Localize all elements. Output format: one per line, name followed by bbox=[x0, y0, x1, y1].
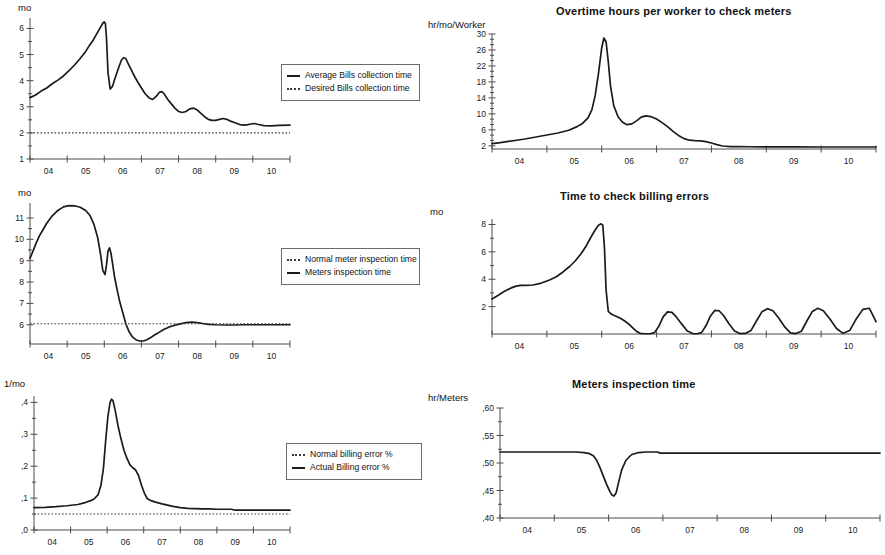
svg-text:07: 07 bbox=[157, 537, 167, 547]
svg-text:10: 10 bbox=[848, 525, 858, 535]
svg-text:,55: ,55 bbox=[482, 431, 494, 441]
legend-item: Meters inspection time bbox=[287, 266, 413, 279]
y-unit-label: hr/Meters bbox=[428, 392, 468, 403]
svg-text:,40: ,40 bbox=[482, 513, 494, 523]
svg-text:05: 05 bbox=[577, 525, 587, 535]
svg-text:,2: ,2 bbox=[21, 461, 28, 471]
legend-line-dotted-icon bbox=[292, 450, 306, 460]
svg-text:09: 09 bbox=[230, 351, 240, 361]
svg-text:10: 10 bbox=[267, 351, 277, 361]
svg-text:04: 04 bbox=[515, 156, 525, 166]
svg-text:09: 09 bbox=[230, 166, 240, 176]
svg-text:1: 1 bbox=[19, 154, 24, 164]
legend-label: Meters inspection time bbox=[305, 267, 391, 278]
svg-text:14: 14 bbox=[477, 93, 487, 103]
svg-text:04: 04 bbox=[522, 525, 532, 535]
legend-label: Actual Billing error % bbox=[310, 462, 390, 473]
svg-text:,1: ,1 bbox=[21, 493, 28, 503]
svg-text:08: 08 bbox=[192, 166, 202, 176]
legend-label: Average Bills collection time bbox=[305, 70, 412, 81]
svg-text:06: 06 bbox=[121, 537, 131, 547]
svg-text:2: 2 bbox=[481, 141, 486, 151]
svg-text:08: 08 bbox=[192, 351, 202, 361]
svg-text:8: 8 bbox=[19, 277, 24, 287]
legend-line-solid-icon bbox=[287, 268, 301, 278]
series-solid bbox=[500, 452, 880, 496]
svg-text:07: 07 bbox=[155, 351, 165, 361]
svg-text:08: 08 bbox=[194, 537, 204, 547]
legend-label: Normal meter inspection time bbox=[305, 254, 417, 265]
legend-line-dotted-icon bbox=[287, 255, 301, 265]
svg-text:05: 05 bbox=[570, 341, 580, 351]
svg-text:8: 8 bbox=[481, 219, 486, 229]
svg-text:10: 10 bbox=[844, 341, 854, 351]
svg-text:2: 2 bbox=[481, 302, 486, 312]
svg-text:05: 05 bbox=[84, 537, 94, 547]
panel-billing-errors-time: Time to check billing errors mo 24680405… bbox=[422, 185, 852, 370]
svg-text:3: 3 bbox=[19, 102, 24, 112]
legend-item: Normal meter inspection time bbox=[287, 253, 413, 266]
svg-text:04: 04 bbox=[44, 166, 54, 176]
legend-label: Desired Bills collection time bbox=[305, 83, 410, 94]
svg-text:4: 4 bbox=[481, 274, 486, 284]
legend-meters-inspection: Normal meter inspection time Meters insp… bbox=[281, 248, 420, 285]
legend-item: Average Bills collection time bbox=[287, 69, 413, 82]
svg-text:09: 09 bbox=[789, 341, 799, 351]
svg-text:7: 7 bbox=[19, 298, 24, 308]
panel-meters-inspection-time: Meters inspection time hr/Meters ,40,45,… bbox=[422, 370, 852, 555]
panel-billing-error-pct: 1/mo ,0,1,2,3,404050607080910 Normal bil… bbox=[0, 370, 430, 555]
series-solid bbox=[492, 38, 876, 147]
svg-text:6: 6 bbox=[19, 23, 24, 33]
svg-text:08: 08 bbox=[734, 341, 744, 351]
svg-text:,45: ,45 bbox=[482, 486, 494, 496]
svg-text:5: 5 bbox=[19, 50, 24, 60]
svg-text:6: 6 bbox=[481, 125, 486, 135]
series-solid bbox=[34, 399, 290, 510]
series-solid bbox=[30, 206, 290, 341]
svg-text:04: 04 bbox=[44, 351, 54, 361]
svg-text:08: 08 bbox=[740, 525, 750, 535]
legend-label: Normal billing error % bbox=[310, 449, 393, 460]
svg-text:2: 2 bbox=[19, 128, 24, 138]
svg-text:10: 10 bbox=[477, 109, 487, 119]
svg-text:10: 10 bbox=[15, 234, 25, 244]
svg-text:,0: ,0 bbox=[21, 525, 28, 535]
legend-billing-error: Normal billing error % Actual Billing er… bbox=[286, 443, 422, 480]
svg-text:06: 06 bbox=[118, 166, 128, 176]
svg-text:05: 05 bbox=[570, 156, 580, 166]
chart-bills-collection-time: 12345604050607080910 bbox=[0, 10, 300, 185]
svg-text:6: 6 bbox=[481, 247, 486, 257]
svg-text:,3: ,3 bbox=[21, 429, 28, 439]
chart-billing-error-percent: ,0,1,2,3,404050607080910 bbox=[0, 388, 300, 555]
svg-text:,60: ,60 bbox=[482, 403, 494, 413]
svg-text:07: 07 bbox=[685, 525, 695, 535]
legend-line-solid-icon bbox=[292, 463, 306, 473]
svg-text:06: 06 bbox=[624, 341, 634, 351]
svg-text:09: 09 bbox=[230, 537, 240, 547]
svg-text:26: 26 bbox=[477, 45, 487, 55]
svg-text:09: 09 bbox=[789, 156, 799, 166]
svg-text:10: 10 bbox=[844, 156, 854, 166]
svg-text:05: 05 bbox=[81, 351, 91, 361]
svg-text:04: 04 bbox=[515, 341, 525, 351]
svg-text:06: 06 bbox=[118, 351, 128, 361]
y-unit-label: mo bbox=[430, 206, 443, 217]
svg-text:05: 05 bbox=[81, 166, 91, 176]
svg-text:22: 22 bbox=[477, 61, 487, 71]
legend-item: Normal billing error % bbox=[292, 448, 415, 461]
svg-text:07: 07 bbox=[679, 156, 689, 166]
legend-line-solid-icon bbox=[287, 71, 301, 81]
panel-bills-collection-time: mo 12345604050607080910 Average Bills co… bbox=[0, 0, 430, 185]
chart-title: Time to check billing errors bbox=[560, 190, 709, 202]
chart-overtime-hours: 2610141822263004050607080910 bbox=[462, 28, 882, 173]
svg-text:4: 4 bbox=[19, 76, 24, 86]
legend-bills-collection: Average Bills collection time Desired Bi… bbox=[281, 64, 420, 101]
chart-billing-errors-time: 246804050607080910 bbox=[462, 213, 882, 358]
svg-text:06: 06 bbox=[631, 525, 641, 535]
legend-line-dotted-icon bbox=[287, 84, 301, 94]
svg-text:07: 07 bbox=[679, 341, 689, 351]
svg-text:,50: ,50 bbox=[482, 458, 494, 468]
chart-meters-inspection-time-left: 6789101104050607080910 bbox=[0, 195, 300, 370]
svg-text:6: 6 bbox=[19, 320, 24, 330]
